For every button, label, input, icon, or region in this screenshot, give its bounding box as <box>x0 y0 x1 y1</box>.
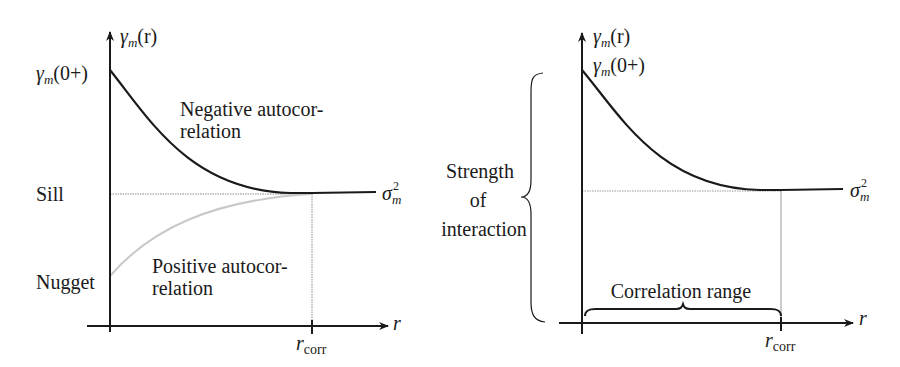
sigma-squared-label: σ2m <box>850 176 869 204</box>
negative-autocorrelation-text-1: Negative autocor- <box>180 98 323 121</box>
nugget-label: Nugget <box>36 271 95 294</box>
strength-brace <box>521 73 545 322</box>
x-axis-label: r <box>859 307 867 329</box>
positive-autocorrelation-text-2: relation <box>152 277 213 299</box>
left-panel: γm(r) γm(0+) Sill Nugget Negative autoco… <box>36 25 401 357</box>
variogram-curve <box>582 70 843 190</box>
correlation-range-brace <box>585 304 781 316</box>
sigma-squared-label: σ2m <box>382 179 401 207</box>
negative-autocorrelation-text-2: relation <box>180 120 241 142</box>
strength-text-3: interaction <box>441 218 527 240</box>
y-axis-label: γm(r) <box>120 25 157 50</box>
right-panel: γm(r) γm(0+) Strength of interaction Cor… <box>441 25 869 354</box>
strength-text-2: of <box>470 189 487 211</box>
sill-label: Sill <box>36 183 64 205</box>
y-intercept-label: γm(0+) <box>593 54 645 79</box>
correlation-range-text: Correlation range <box>611 280 752 303</box>
rcorr-label: rcorr <box>765 329 796 354</box>
rcorr-label: rcorr <box>296 332 327 357</box>
x-axis-label: r <box>393 312 401 334</box>
variogram-diagram: γm(r) γm(0+) Sill Nugget Negative autoco… <box>0 0 900 367</box>
y-intercept-label: γm(0+) <box>36 62 88 87</box>
positive-autocorrelation-text-1: Positive autocor- <box>152 255 288 277</box>
strength-text-1: Strength <box>446 160 514 183</box>
y-axis-label: γm(r) <box>593 25 630 50</box>
negative-autocorrelation-curve <box>110 70 376 193</box>
